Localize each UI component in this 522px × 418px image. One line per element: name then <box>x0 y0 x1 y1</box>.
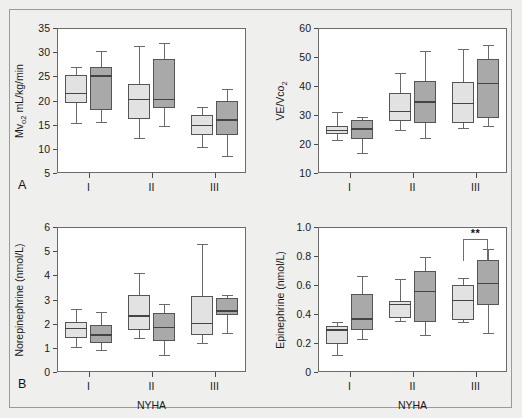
median-line <box>326 329 348 330</box>
panel-letter-b: B <box>18 377 26 391</box>
figure-root: 5101520253035Mvo2 mL/kg/minIIIIII 102030… <box>0 0 522 418</box>
x-tick-mark <box>350 372 351 377</box>
significance-marker: ** <box>471 227 481 239</box>
y-tick-mark <box>314 227 318 228</box>
box-plot-box <box>452 285 474 320</box>
whisker-cap-lower <box>357 339 368 340</box>
y-tick-label: 1.0 <box>280 221 311 233</box>
x-axis-label: NYHA <box>398 399 427 411</box>
median-line <box>351 318 373 319</box>
whisker-cap-upper <box>332 322 343 323</box>
whisker-cap-upper <box>420 257 431 258</box>
box-plot-box <box>351 294 373 330</box>
whisker-upper <box>362 276 363 295</box>
whisker-cap-upper <box>458 278 469 279</box>
whisker-cap-lower <box>332 355 343 356</box>
whisker-cap-lower <box>420 335 431 336</box>
y-axis-label: Epinephrine (nmol/L) <box>274 251 286 348</box>
whisker-cap-lower <box>458 322 469 323</box>
whisker-cap-lower <box>395 321 406 322</box>
whisker-upper <box>425 257 426 270</box>
median-line <box>452 300 474 301</box>
box-plot-box <box>414 271 436 322</box>
median-line <box>477 283 499 284</box>
y-tick-mark <box>314 343 318 344</box>
median-line <box>414 291 436 292</box>
whisker-lower <box>425 322 426 335</box>
x-tick-mark <box>476 372 477 377</box>
whisker-cap-upper <box>357 276 368 277</box>
whisker-cap-upper <box>395 279 406 280</box>
whisker-upper <box>488 249 489 260</box>
x-tick-label: II <box>410 380 416 392</box>
whisker-cap-lower <box>483 333 494 334</box>
y-tick-label: 0 <box>280 366 311 378</box>
y-tick-mark <box>314 314 318 315</box>
y-tick-mark <box>314 256 318 257</box>
x-tick-mark <box>413 372 414 377</box>
panel-epinephrine: 00.20.40.60.81.0Epinephrine (nmol/L)IIII… <box>0 0 522 418</box>
whisker-upper <box>400 279 401 300</box>
y-tick-mark <box>314 285 318 286</box>
whisker-lower <box>337 344 338 355</box>
y-tick-mark <box>314 372 318 373</box>
x-tick-label: I <box>348 380 351 392</box>
whisker-lower <box>488 305 489 333</box>
x-tick-label: III <box>471 380 480 392</box>
significance-bracket <box>463 239 488 261</box>
whisker-lower <box>362 330 363 338</box>
median-line <box>389 304 411 305</box>
panel-letter-a: A <box>18 178 26 192</box>
